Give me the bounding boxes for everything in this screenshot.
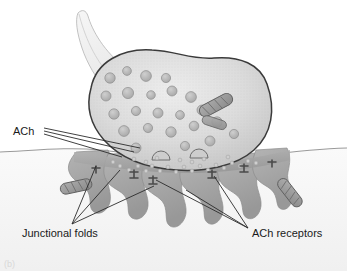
neuromuscular-junction-diagram: ACh Junctional folds ACh receptors (b) — [0, 0, 347, 271]
label-ach: ACh — [13, 125, 34, 137]
figure-canvas: ACh Junctional folds ACh receptors (b) — [0, 0, 347, 271]
label-ach-receptors: ACh receptors — [252, 227, 323, 239]
label-junctional-folds: Junctional folds — [22, 227, 98, 239]
panel-label: (b) — [4, 259, 15, 269]
